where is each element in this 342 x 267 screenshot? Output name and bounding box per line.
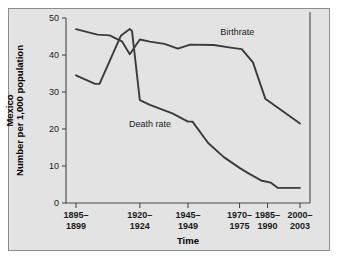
x-tick-label-top: 1985– (255, 210, 280, 220)
y-tick-label: 40 (49, 50, 59, 60)
x-tick-label-bottom: 1990 (258, 221, 278, 231)
x-tick-label-top: 1945– (175, 210, 200, 220)
series-annotation-death-rate: Death rate (129, 119, 171, 129)
y-tick-label: 50 (49, 13, 59, 23)
x-tick-label-top: 1970– (227, 210, 252, 220)
x-tick-label-bottom: 2003 (290, 221, 310, 231)
x-tick-label-top: 1895– (63, 210, 88, 220)
y-tick-label: 20 (49, 124, 59, 134)
x-tick-label-bottom: 1975 (230, 221, 250, 231)
x-tick-label-top: 1920– (127, 210, 152, 220)
series-line-death-rate (76, 29, 300, 188)
figure-container: 010203040501895–18991920–19241945–194919… (0, 0, 342, 267)
y-tick-label: 10 (49, 161, 59, 171)
x-axis-title: Time (177, 235, 199, 246)
y-tick-label: 0 (54, 198, 59, 208)
line-chart: 010203040501895–18991920–19241945–194919… (0, 0, 342, 267)
y-tick-label: 30 (49, 87, 59, 97)
x-tick-label-bottom: 1899 (66, 221, 86, 231)
series-line-birthrate (76, 29, 300, 123)
x-tick-label-bottom: 1949 (178, 221, 198, 231)
x-tick-label-bottom: 1924 (130, 221, 150, 231)
y-axis-title: Number per 1,000 population (14, 45, 25, 176)
y-axis-title-prefix: Mexico (4, 94, 15, 126)
x-tick-label-top: 2000– (287, 210, 312, 220)
series-annotation-birthrate: Birthrate (220, 27, 254, 37)
